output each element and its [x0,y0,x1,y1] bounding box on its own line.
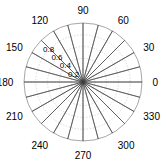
angle-tick-label-90: 90 [77,5,89,16]
angle-tick-label-300: 300 [118,140,135,151]
polar-plot-svg: 0.20.40.60.8 030609012015018021024027030… [0,0,167,162]
polar-chart-figure: 0.20.40.60.8 030609012015018021024027030… [0,0,167,162]
radial-tick-label-0.2: 0.2 [68,70,80,79]
radial-tick-label-0.6: 0.6 [51,53,63,62]
angle-tick-label-210: 210 [6,111,23,122]
radial-tick-label-0.8: 0.8 [43,45,55,54]
angle-tick-label-120: 120 [32,15,49,26]
radial-tick-label-0.4: 0.4 [60,61,72,70]
angle-tick-label-180: 180 [0,77,14,88]
angle-tick-label-0: 0 [153,77,159,88]
angle-tick-label-270: 270 [75,150,92,161]
data-series-petal-star [24,23,142,141]
angle-tick-label-150: 150 [6,42,23,53]
angle-tick-label-60: 60 [118,15,130,26]
polar-data-petals [24,23,142,141]
angle-tick-label-330: 330 [143,111,160,122]
angle-tick-label-30: 30 [143,42,155,53]
angle-tick-label-240: 240 [32,140,49,151]
